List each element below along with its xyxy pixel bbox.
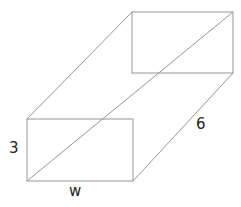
diagonal [27,12,233,181]
prism-drawing [0,0,241,207]
back-face [132,12,233,73]
front-face [27,119,133,181]
length-label: 6 [196,117,206,132]
width-label: w [69,184,81,199]
height-label: 3 [9,141,19,156]
edge-bottom-right [133,73,233,181]
edge-top-left [27,12,132,119]
prism-diagram: 3 w 6 [0,0,241,207]
